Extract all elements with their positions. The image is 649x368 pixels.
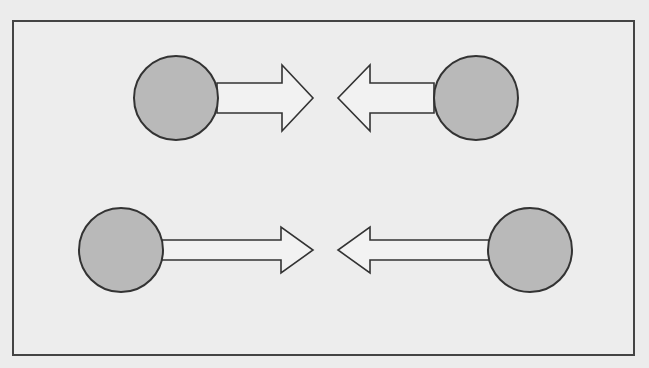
right-circle-ball xyxy=(488,208,572,292)
left-circle-ball xyxy=(79,208,163,292)
diagram-canvas xyxy=(0,0,649,368)
left-circle-ball xyxy=(134,56,218,140)
right-circle-ball xyxy=(434,56,518,140)
diagram-frame xyxy=(13,21,634,355)
diagram-svg xyxy=(0,0,649,368)
